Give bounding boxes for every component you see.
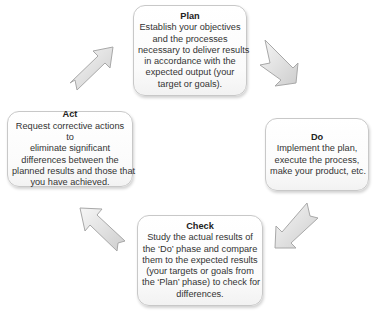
act-line: eliminate significant: [12, 143, 128, 154]
check-line: the ‘Do’ phase and compare: [142, 244, 258, 255]
plan-line: expected output (your: [138, 67, 242, 78]
do-title: Do: [270, 132, 364, 143]
plan-line: necessary to deliver results: [138, 45, 242, 56]
act-title: Act: [12, 109, 128, 120]
act-line: you have achieved.: [12, 177, 128, 188]
check-box: Check Study the actual results of the ‘D…: [137, 215, 263, 306]
arrow-down-right-icon: [255, 35, 315, 95]
do-line: make your product, etc.: [270, 166, 364, 177]
plan-box: Plan Establish your objectives and the p…: [133, 5, 247, 96]
arrow-up-left-icon: [75, 203, 135, 263]
plan-line: in accordance with the: [138, 56, 242, 67]
check-line: the ‘Plan’ phase) to check for: [142, 277, 258, 288]
act-line: differences between the: [12, 155, 128, 166]
plan-title: Plan: [138, 11, 242, 22]
act-box: Act Request corrective actions to elimin…: [7, 111, 133, 187]
check-title: Check: [142, 221, 258, 232]
arrow-up-right-icon: [65, 40, 125, 95]
plan-line: and the processes: [138, 34, 242, 45]
do-box: Do Implement the plan, execute the proce…: [265, 118, 369, 191]
plan-line: Establish your objectives: [138, 22, 242, 33]
check-line: them to the expected results: [142, 255, 258, 266]
check-line: differences.: [142, 289, 258, 300]
do-line: Implement the plan,: [270, 143, 364, 154]
act-line: planned results and those that: [12, 166, 128, 177]
act-line: Request corrective actions to: [12, 121, 128, 144]
arrow-down-left-icon: [265, 198, 325, 258]
do-line: execute the process,: [270, 155, 364, 166]
plan-line: target or goals).: [138, 79, 242, 90]
check-line: (your targets or goals from: [142, 266, 258, 277]
check-line: Study the actual results of: [142, 232, 258, 243]
